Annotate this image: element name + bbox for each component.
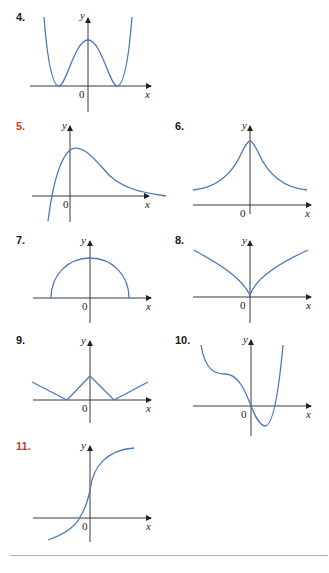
origin-label: 0 <box>79 88 85 100</box>
section-divider <box>10 555 328 556</box>
origin-label: 0 <box>82 520 88 532</box>
graph-7: y 0 x <box>33 234 151 323</box>
graph-4: y 0 x <box>30 9 151 112</box>
curve-8 <box>194 250 308 295</box>
x-label: x <box>305 299 311 311</box>
origin-label: 0 <box>82 402 88 414</box>
y-label: y <box>241 234 247 246</box>
y-label: y <box>80 334 86 346</box>
graph-6: y 0 x <box>193 119 311 219</box>
y-label: y <box>61 119 67 131</box>
x-label: x <box>144 198 150 210</box>
graph-9: y 0 x <box>32 334 151 423</box>
x-label: x <box>144 88 150 100</box>
origin-label: 0 <box>63 198 69 210</box>
graph-5: y 0 x <box>32 119 166 222</box>
y-label: y <box>242 333 248 345</box>
graph-8: y 0 x <box>193 234 311 323</box>
origin-label: 0 <box>240 299 246 311</box>
y-label: y <box>241 119 247 131</box>
graph-11: y 0 x <box>33 439 151 542</box>
y-label: y <box>80 234 86 246</box>
origin-label: 0 <box>241 408 247 420</box>
curve-11 <box>48 448 134 540</box>
graphs-canvas: y 0 x y 0 x y 0 x y 0 x y 0 x <box>0 0 329 573</box>
y-label: y <box>79 9 85 21</box>
graph-10: y 0 x <box>193 333 311 436</box>
curve-5 <box>48 148 166 221</box>
x-label: x <box>305 408 311 420</box>
origin-label: 0 <box>240 207 246 219</box>
x-label: x <box>145 402 151 414</box>
origin-label: 0 <box>82 300 88 312</box>
x-label: x <box>145 300 151 312</box>
x-label: x <box>145 520 151 532</box>
y-label: y <box>80 439 86 451</box>
x-label: x <box>304 207 310 219</box>
